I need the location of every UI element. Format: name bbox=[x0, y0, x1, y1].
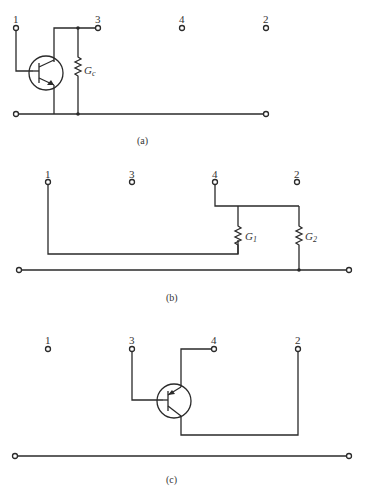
wire-1-to-g1 bbox=[48, 185, 238, 254]
terminal-4 bbox=[212, 347, 217, 352]
terminal-2 bbox=[264, 26, 269, 31]
ground-terminal-right bbox=[264, 112, 269, 117]
terminal-2 bbox=[296, 347, 301, 352]
terminal-1 bbox=[14, 26, 19, 31]
terminal-3 bbox=[130, 347, 135, 352]
ground-terminal-left bbox=[17, 268, 22, 273]
ground-terminal-right bbox=[347, 268, 352, 273]
terminal-3 bbox=[96, 26, 101, 31]
panel-caption: (a) bbox=[137, 135, 148, 147]
terminal-3 bbox=[130, 180, 135, 185]
resistor-gc bbox=[75, 28, 81, 114]
emitter-wire bbox=[181, 349, 211, 387]
terminal-label-1: 1 bbox=[13, 13, 19, 25]
panel-a: 1 3 4 2 Gc (a) bbox=[13, 13, 269, 147]
resistor-g1-label: G1 bbox=[245, 230, 257, 244]
ground-terminal-left bbox=[14, 112, 19, 117]
resistor-gc-label: Gc bbox=[84, 64, 96, 78]
terminal-2 bbox=[295, 180, 300, 185]
ground-terminal-left bbox=[13, 454, 18, 459]
resistor-g2-label: G2 bbox=[305, 230, 317, 244]
npn-transistor-icon bbox=[29, 56, 63, 114]
terminal-label-1: 1 bbox=[45, 334, 51, 346]
terminal-label-2: 2 bbox=[295, 334, 301, 346]
panel-caption: (b) bbox=[166, 292, 178, 304]
panel-c: 1 3 4 2 (c) bbox=[13, 334, 352, 486]
terminal-label-3: 3 bbox=[129, 334, 135, 346]
wire-4-bus bbox=[215, 185, 299, 206]
terminal-label-2: 2 bbox=[294, 168, 300, 180]
terminal-1 bbox=[46, 347, 51, 352]
terminal-label-2: 2 bbox=[263, 13, 269, 25]
terminal-label-4: 4 bbox=[212, 168, 218, 180]
terminal-label-1: 1 bbox=[45, 168, 51, 180]
terminal-label-3: 3 bbox=[129, 168, 135, 180]
terminal-4 bbox=[213, 180, 218, 185]
resistor-g1 bbox=[235, 206, 241, 254]
panel-b: 1 3 4 2 G1 G2 (b) bbox=[17, 168, 352, 304]
terminal-label-3: 3 bbox=[95, 13, 101, 25]
terminal-4 bbox=[180, 26, 185, 31]
ground-terminal-right bbox=[347, 454, 352, 459]
circuit-figure: 1 3 4 2 Gc (a) bbox=[0, 0, 368, 499]
terminal-label-4: 4 bbox=[211, 334, 217, 346]
resistor-g2 bbox=[296, 206, 302, 270]
collector-wire bbox=[181, 352, 298, 435]
collector-wire bbox=[54, 28, 95, 62]
base-wire bbox=[132, 352, 163, 400]
terminal-1 bbox=[46, 180, 51, 185]
panel-caption: (c) bbox=[166, 474, 177, 486]
terminal-label-4: 4 bbox=[179, 13, 185, 25]
pnp-transistor-icon bbox=[157, 384, 191, 418]
